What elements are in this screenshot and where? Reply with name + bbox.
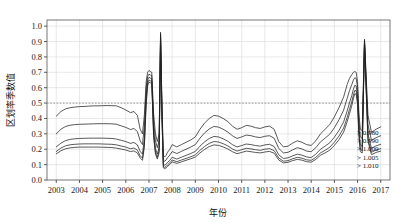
y-axis-ticks: 0.00.10.20.30.40.50.60.70.80.91.0	[31, 21, 47, 185]
x-tick-label: 2013	[280, 185, 297, 195]
x-tick-label: 2009	[187, 185, 204, 195]
x-tick-label: 2005	[94, 185, 111, 195]
x-tick-label: 2003	[48, 185, 65, 195]
legend-entry: > 0.980	[357, 129, 379, 137]
x-tick-label: 2004	[71, 185, 89, 195]
y-tick-label: 0.6	[31, 83, 42, 93]
y-tick-label: 0.5	[31, 98, 42, 108]
x-axis-title: 年份	[209, 207, 227, 218]
chart-figure: 0.00.10.20.30.40.50.60.70.80.91.0 200320…	[0, 0, 412, 224]
chart-legend: > 0.980> 0.990> 1.000> 1.005> 1.010	[357, 129, 379, 170]
line-chart: 0.00.10.20.30.40.50.60.70.80.91.0 200320…	[0, 0, 412, 224]
y-tick-label: 0.1	[31, 160, 42, 170]
y-tick-label: 0.9	[31, 37, 42, 47]
x-tick-label: 2012	[256, 185, 273, 195]
x-axis-ticks: 2003200420052006200720082009201020112012…	[48, 180, 389, 195]
legend-entry: > 0.990	[357, 137, 379, 145]
y-axis-title: 区划率季数值	[5, 73, 16, 127]
x-tick-label: 2015	[326, 185, 343, 195]
x-tick-label: 2017	[372, 185, 389, 195]
x-tick-label: 2010	[210, 185, 227, 195]
x-tick-label: 2006	[117, 185, 134, 195]
legend-entry: > 1.000	[357, 145, 379, 153]
x-tick-label: 2014	[303, 185, 321, 195]
y-tick-label: 0.7	[31, 67, 42, 77]
y-tick-label: 1.0	[31, 21, 42, 31]
x-tick-label: 2011	[233, 185, 250, 195]
legend-entry: > 1.005	[357, 154, 379, 162]
y-tick-label: 0.4	[31, 113, 42, 123]
y-tick-label: 0.3	[31, 129, 42, 139]
gridlines	[47, 20, 390, 180]
x-tick-label: 2007	[140, 185, 157, 195]
x-tick-label: 2008	[164, 185, 181, 195]
y-tick-label: 0.0	[31, 175, 42, 185]
legend-entry: > 1.010	[357, 162, 379, 170]
x-tick-label: 2016	[349, 185, 366, 195]
y-tick-label: 0.8	[31, 52, 42, 62]
y-tick-label: 0.2	[31, 144, 42, 154]
